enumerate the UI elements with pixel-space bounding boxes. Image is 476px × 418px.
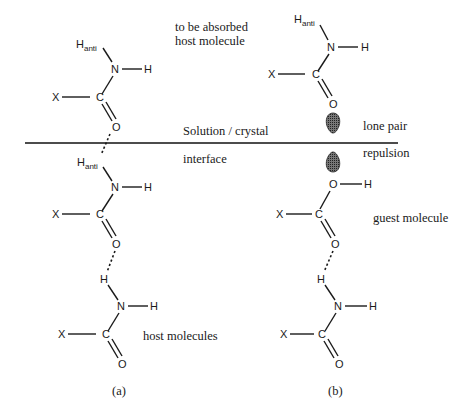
atom-o: O	[335, 358, 344, 370]
atom-x: X	[52, 208, 60, 220]
molecule-b2-guest: O H X C O	[276, 178, 372, 250]
panel-b-label: (b)	[328, 384, 343, 398]
repulsion-label: repulsion	[363, 146, 410, 160]
atom-c: C	[96, 208, 104, 220]
lone-pair-label: lone pair	[363, 119, 408, 133]
atom-o: O	[112, 121, 121, 133]
atom-h: H	[364, 178, 372, 190]
atom-n: N	[327, 41, 335, 53]
atom-o: O	[112, 238, 121, 250]
atom-x: X	[52, 91, 60, 103]
atom-n: N	[334, 300, 342, 312]
interface-label: interface	[183, 152, 227, 166]
molecule-a2: Hanti N H X C O	[52, 156, 152, 250]
absorbed-label-line2: host molecule	[175, 34, 245, 48]
atom-c: C	[315, 208, 323, 220]
hydrogen-bond-b	[324, 251, 333, 272]
panel-a-label: (a)	[112, 384, 126, 398]
molecule-a3: H N H X C O	[58, 273, 158, 370]
atom-h: H	[144, 63, 152, 75]
atom-h-anti: Hanti	[294, 13, 315, 28]
host-molecules-label: host molecules	[143, 329, 218, 343]
atom-h: H	[100, 273, 108, 285]
guest-molecule-label: guest molecule	[373, 211, 449, 225]
lone-pair-icon-upper	[326, 113, 340, 133]
atom-x: X	[276, 208, 284, 220]
molecule-b1: Hanti N H X C O	[268, 13, 369, 110]
atom-h-anti: Hanti	[77, 156, 98, 171]
atom-c: C	[318, 328, 326, 340]
atom-h: H	[144, 181, 152, 193]
atom-o-carbonyl: O	[331, 238, 340, 250]
atom-n: N	[111, 181, 119, 193]
atom-h: H	[317, 273, 325, 285]
atom-o: O	[118, 358, 127, 370]
lone-pair-icon-lower	[326, 152, 340, 172]
atom-h: H	[369, 300, 377, 312]
molecule-a1: Hanti N H X C O	[52, 38, 152, 133]
hydrogen-bond-diagram: to be absorbed host molecule Solution / …	[0, 0, 476, 418]
atom-n: N	[117, 300, 125, 312]
atom-x: X	[58, 328, 66, 340]
absorbed-label-line1: to be absorbed	[175, 20, 249, 34]
atom-o: O	[329, 98, 338, 110]
atom-h: H	[361, 41, 369, 53]
atom-c: C	[96, 91, 104, 103]
diagram-canvas: to be absorbed host molecule Solution / …	[0, 0, 476, 418]
molecule-b3: H N H X C O	[280, 273, 377, 370]
solution-crystal-label: Solution / crystal	[183, 124, 269, 138]
atom-o-hydroxyl: O	[329, 178, 338, 190]
atom-c: C	[312, 68, 320, 80]
atom-n: N	[111, 63, 119, 75]
hydrogen-bond-a1	[101, 134, 110, 155]
atom-h: H	[150, 300, 158, 312]
atom-x: X	[268, 68, 276, 80]
atom-c: C	[102, 328, 110, 340]
atom-h-anti: Hanti	[76, 38, 97, 53]
hydrogen-bond-a2	[107, 251, 115, 272]
atom-x: X	[280, 328, 288, 340]
